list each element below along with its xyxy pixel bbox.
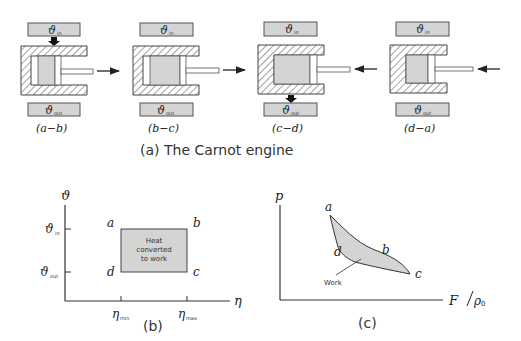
theta-out-sub: out <box>291 110 299 116</box>
x-axis-denominator-sub: 0 <box>481 300 485 308</box>
heat-out-arrow-icon <box>285 95 297 103</box>
theta-out-sub: out <box>54 110 62 116</box>
theta-in-label: ϑ <box>48 24 56 37</box>
step-label: (a−b) <box>36 122 67 135</box>
xtick-eta-min: η <box>112 307 120 321</box>
step-label: (b−c) <box>148 122 179 135</box>
ytick-theta-out-sub: out <box>50 273 58 279</box>
theta-out-sub: out <box>423 110 431 116</box>
piston <box>310 55 317 84</box>
cycle-area <box>330 215 410 274</box>
work-annotation: Work <box>324 279 343 287</box>
corner-c: c <box>193 265 200 279</box>
gas-chamber <box>38 56 55 85</box>
engine-d-a: ϑ in ϑ out (d−a) <box>390 22 500 135</box>
caption-c: (c) <box>358 315 377 331</box>
chart-c: p F ρ 0 Work a b c d (c) <box>275 188 485 331</box>
theta-out-sub: out <box>166 110 174 116</box>
piston-rod <box>317 67 350 72</box>
rect-text-line2: converted <box>136 246 171 254</box>
y-axis-label: p <box>275 188 284 203</box>
y-axis-label: ϑ <box>61 188 70 203</box>
gas-chamber <box>150 56 180 85</box>
corner-d: d <box>107 265 115 279</box>
piston <box>55 56 61 85</box>
xtick-eta-max-sub: max <box>186 315 197 321</box>
engine-c-d: ϑ in ϑ out (c−d) <box>258 22 377 135</box>
theta-in-sub: in <box>169 30 174 36</box>
corner-a: a <box>107 216 114 230</box>
piston-rod <box>435 67 473 71</box>
chart-b: ϑ η ϑ in ϑ out η min η max Heat converte… <box>40 188 242 334</box>
point-a: a <box>325 200 332 214</box>
theta-in-label: ϑ <box>160 24 168 37</box>
engine-b-c: ϑ in ϑ out (b−c) <box>133 23 245 135</box>
gas-chamber <box>406 55 428 83</box>
rect-text-line3: to work <box>141 255 168 263</box>
carnot-figure: ϑ in ϑ out (a−b) ϑ in ϑ out (b−c) ϑ in <box>0 0 521 341</box>
point-c: c <box>415 267 422 281</box>
step-label: (c−d) <box>272 122 303 135</box>
corner-b: b <box>193 216 201 230</box>
theta-in-sub: in <box>294 29 299 35</box>
xtick-eta-max: η <box>178 307 186 321</box>
caption-a: (a) The Carnot engine <box>140 142 293 158</box>
engine-a-b: ϑ in ϑ out (a−b) <box>21 23 119 135</box>
work-pointer <box>336 259 361 275</box>
theta-out-label: ϑ <box>414 104 422 117</box>
point-d: d <box>334 245 342 259</box>
heat-in-arrow-icon <box>48 37 60 46</box>
ytick-theta-in-sub: in <box>55 230 60 236</box>
theta-in-sub: in <box>57 30 62 36</box>
gas-chamber <box>274 55 310 84</box>
theta-in-sub: in <box>425 29 430 35</box>
caption-b: (b) <box>143 318 163 334</box>
ytick-theta-out: ϑ <box>40 265 49 279</box>
step-label: (d−a) <box>404 122 435 135</box>
piston <box>180 56 186 85</box>
ytick-theta-in: ϑ <box>45 222 54 236</box>
theta-in-label: ϑ <box>416 23 424 36</box>
piston-rod <box>186 68 219 73</box>
theta-out-label: ϑ <box>45 104 53 117</box>
x-axis-label: η <box>234 293 242 308</box>
xtick-eta-min-sub: min <box>120 315 129 321</box>
point-b: b <box>382 243 390 257</box>
theta-out-label: ϑ <box>157 104 165 117</box>
x-axis-label: F <box>448 293 459 308</box>
piston <box>428 55 435 83</box>
theta-out-label: ϑ <box>282 104 290 117</box>
theta-in-label: ϑ <box>285 23 293 36</box>
x-axis-slash <box>467 291 473 306</box>
piston-rod <box>61 69 93 74</box>
rect-text-line1: Heat <box>146 237 163 245</box>
x-axis-denominator: ρ <box>473 294 481 308</box>
